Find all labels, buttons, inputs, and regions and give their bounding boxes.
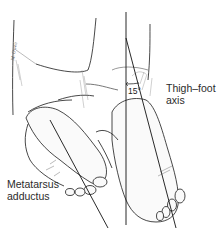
angle-label: 15° — [128, 86, 141, 96]
metatarsus-adductus-label-line2: adductus — [7, 190, 59, 202]
right-foot-drawing — [96, 99, 185, 223]
thigh-foot-axis-label: Thigh–foot axis — [166, 82, 216, 106]
thigh-foot-axis-label-line1: Thigh–foot — [166, 82, 216, 94]
figure-canvas: M. Owen 15° Thigh–foot axis Metatarsus a… — [0, 0, 224, 233]
angle-arc — [126, 83, 139, 84]
metatarsus-adductus-label: Metatarsus adductus — [7, 178, 59, 202]
metatarsus-adductus-label-line1: Metatarsus — [7, 178, 59, 190]
thigh-foot-axis-label-line2: axis — [166, 94, 216, 106]
